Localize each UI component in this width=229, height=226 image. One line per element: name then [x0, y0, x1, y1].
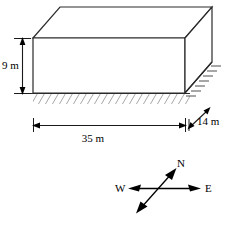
- depth-dimension: 14 m: [188, 107, 220, 131]
- ground-surface: [19, 94, 190, 105]
- length-dimension: 35 m: [32, 118, 187, 144]
- box-top-face: [33, 7, 212, 38]
- compass-west-arrow: [128, 185, 141, 192]
- engineering-diagram: 9 m 35 m 14 m: [0, 0, 229, 226]
- height-dimension: 9 m: [2, 37, 31, 95]
- length-dimension-label: 35 m: [82, 132, 105, 144]
- compass-north-label: N: [177, 157, 185, 169]
- compass-west-label: W: [115, 182, 126, 194]
- compass-east-label: E: [205, 182, 212, 194]
- compass-ns-axis: [140, 172, 173, 209]
- ground-hatching: [33, 94, 190, 104]
- diagram-canvas: 9 m 35 m 14 m: [0, 0, 229, 226]
- height-dimension-label: 9 m: [2, 59, 19, 71]
- box-front-face: [33, 38, 185, 93]
- compass-east-arrow: [188, 185, 201, 192]
- depth-dimension-label: 14 m: [197, 115, 220, 127]
- box-solid: [33, 7, 212, 93]
- compass-rose: N W E: [115, 157, 212, 214]
